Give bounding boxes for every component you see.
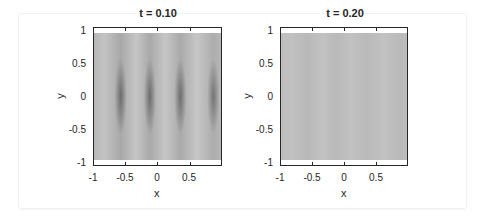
plot-title: t = 0.20 [275, 7, 415, 19]
y-tick-label: 1 [58, 25, 86, 36]
heatmap-image [94, 33, 221, 160]
y-tick-label: -1 [58, 157, 86, 168]
x-tick-label: 0 [142, 172, 172, 183]
heatmap-image [281, 33, 407, 160]
y-tick-label: 0.5 [58, 58, 86, 69]
y-axis-title: y [54, 93, 66, 99]
x-tick-label: 0.5 [361, 172, 391, 183]
y-tick-label: -0.5 [245, 124, 273, 135]
y-tick-label: 0.5 [245, 58, 273, 69]
y-tick-label: -1 [245, 157, 273, 168]
plot-axes [93, 27, 222, 166]
y-axis-title: y [241, 93, 253, 99]
x-tick-label: -0.5 [297, 172, 327, 183]
plot-title: t = 0.10 [88, 7, 228, 19]
x-axis-title: x [341, 187, 347, 199]
x-tick-label: -0.5 [110, 172, 140, 183]
plot-axes [280, 27, 408, 166]
x-tick-label: -1 [265, 172, 295, 183]
x-tick-label: -1 [78, 172, 108, 183]
x-tick-label: 0 [329, 172, 359, 183]
x-axis-title: x [154, 187, 160, 199]
y-tick-label: 1 [245, 25, 273, 36]
y-tick-label: -0.5 [58, 124, 86, 135]
x-tick-label: 0.5 [174, 172, 204, 183]
